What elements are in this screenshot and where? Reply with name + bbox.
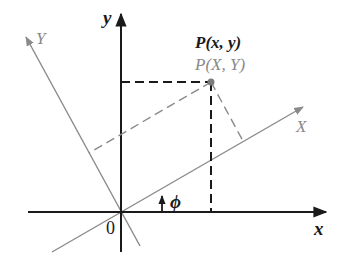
projection-to-Y-axis [89,82,211,153]
x-axis-label: x [313,218,324,239]
y-axis-label: y [101,7,112,28]
angle-label: ϕ [170,191,181,212]
origin-label: 0 [106,218,115,238]
Y-axis-rotated [26,37,140,246]
point-xy-label: P(x, y) [194,33,241,52]
point-XY-label: P(X, Y) [194,55,245,74]
X-axis-label: X [295,117,307,136]
rotation-diagram: y Y X x 0 ϕ P(x, y) P(X, Y) [0,0,344,271]
X-axis-rotated [52,107,303,252]
Y-axis-label: Y [36,29,47,48]
point-P [208,79,215,86]
projection-to-X-axis [211,82,243,141]
